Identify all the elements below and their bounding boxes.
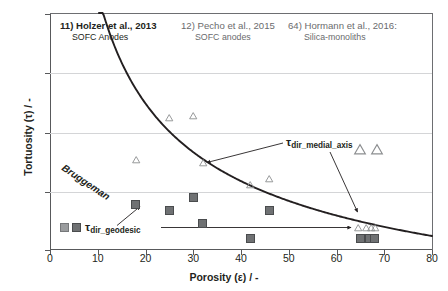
xtick-label-0: 0	[30, 253, 70, 264]
citation-holzer: 11) Holzer et al., 2013 SOFC Anodes	[60, 20, 157, 43]
data-point-square	[165, 206, 174, 215]
xtick-label-50: 50	[269, 253, 309, 264]
xtick-label-60: 60	[317, 253, 357, 264]
xtick-label-30: 30	[173, 253, 213, 264]
citation-pecho-subject: SOFC anodes	[181, 32, 275, 43]
data-point-square	[370, 234, 379, 243]
data-point-triangle	[246, 181, 254, 188]
citation-hormann-ref: 64) Hormann et al., 2016:	[288, 20, 397, 32]
data-point-triangle	[165, 114, 173, 121]
data-point-triangle	[265, 175, 273, 182]
xtick-label-80: 80	[412, 253, 448, 264]
xtick-label-10: 10	[78, 253, 118, 264]
citation-hormann-subject: Silica-monoliths	[288, 32, 397, 43]
y-axis-title: Tortuosity (τ) / -	[22, 57, 34, 217]
legend-square-light	[60, 223, 69, 232]
annotation-tau-dir-geodesic: τdir_geodesic	[85, 221, 141, 233]
xtick-label-70: 70	[364, 253, 404, 264]
data-point-square	[198, 219, 207, 228]
legend-square-dark	[72, 223, 81, 232]
tau-sub-geodesic: dir_geodesic	[90, 226, 141, 235]
tau-sub-medial: dir_medial_axis	[291, 141, 352, 150]
citation-pecho-ref: 12) Pecho et al., 2015	[181, 20, 275, 32]
data-point-triangle	[354, 224, 362, 231]
xtick-label-40: 40	[221, 253, 261, 264]
xtick-label-20: 20	[126, 253, 166, 264]
ytick-mark-3	[45, 14, 50, 15]
data-point-triangle	[354, 144, 366, 155]
plot-frame-right	[432, 13, 433, 250]
ytick-mark-1.5	[45, 192, 50, 193]
citation-holzer-subject: SOFC Anodes	[60, 32, 157, 43]
ytick-mark-2	[45, 133, 50, 134]
plot-frame-top	[50, 13, 432, 14]
data-point-square	[265, 206, 274, 215]
data-point-triangle	[371, 144, 383, 155]
citation-pecho: 12) Pecho et al., 2015 SOFC anodes	[181, 20, 275, 43]
data-point-triangle	[199, 159, 207, 166]
plot-area	[50, 13, 432, 250]
data-point-square	[356, 234, 365, 243]
data-point-square	[246, 234, 255, 243]
gridline-2	[50, 133, 432, 134]
citation-holzer-ref: 11) Holzer et al., 2013	[60, 20, 157, 32]
data-point-square	[131, 200, 140, 209]
legend-swatches-geodesic	[60, 223, 81, 232]
data-point-triangle	[132, 156, 140, 163]
data-point-square	[189, 193, 198, 202]
citation-hormann: 64) Hormann et al., 2016: Silica-monolit…	[288, 20, 397, 43]
x-axis-title: Porosity (ε) / -	[0, 271, 448, 283]
ytick-mark-2.5	[45, 73, 50, 74]
data-point-triangle	[371, 224, 379, 231]
data-point-triangle	[189, 112, 197, 119]
gridline-2.5	[50, 73, 432, 74]
annotation-tau-dir-medial-axis: τdir_medial_axis	[286, 136, 353, 148]
